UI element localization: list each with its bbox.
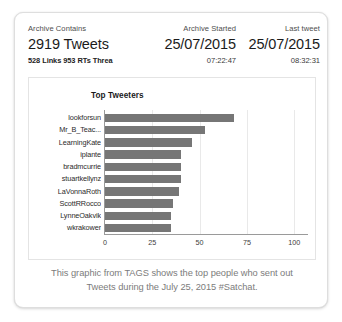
- chart-bar-row: ScottRRocco: [29, 198, 317, 210]
- bar-fill: [105, 212, 171, 221]
- chart-bar-row: wkrakower: [29, 222, 317, 234]
- stat-archive-contains-caption: Archive Contains: [28, 24, 148, 34]
- chart-bar-row: bradmcurrie: [29, 161, 317, 173]
- chart-bar-row: LaVonnaRoth: [29, 186, 317, 198]
- bar-fill: [105, 224, 171, 233]
- stat-archive-contains-detail: 528 Links 953 RTs Threa: [28, 55, 148, 66]
- figure-caption-line-2: Tweets during the July 25, 2015 #Satchat…: [31, 281, 313, 295]
- bar-fill: [105, 114, 234, 123]
- archive-stats-row: Archive Contains 2919 Tweets 528 Links 9…: [15, 13, 329, 73]
- stat-archive-started: Archive Started 25/07/2015 07:22:47: [148, 24, 236, 66]
- bar-category-label: lookforsun: [29, 112, 101, 124]
- bar-category-label: wkrakower: [29, 222, 101, 234]
- stat-archive-started-time: 07:22:47: [148, 55, 236, 66]
- bar-category-label: ScottRRocco: [29, 198, 101, 210]
- top-tweeters-chart-panel: Top Tweeters 0255075100lookforsunMr_B_Te…: [28, 77, 316, 260]
- bar-category-label: iplante: [29, 149, 101, 161]
- stat-last-tweet: Last tweet 25/07/2015 08:32:31: [240, 24, 320, 66]
- chart-bar-row: iplante: [29, 149, 317, 161]
- bar-fill: [105, 187, 179, 196]
- bar-category-label: stuartkellynz: [29, 173, 101, 185]
- bar-fill: [105, 163, 181, 172]
- figure-caption-line-1: This graphic from TAGS shows the top peo…: [31, 267, 313, 281]
- stat-archive-contains: Archive Contains 2919 Tweets 528 Links 9…: [28, 24, 148, 66]
- chart-bar-row: LynneOakvik: [29, 210, 317, 222]
- stat-archive-started-caption: Archive Started: [148, 24, 236, 34]
- bar-category-label: LynneOakvik: [29, 210, 101, 222]
- bar-category-label: LaVonnaRoth: [29, 186, 101, 198]
- stat-last-tweet-caption: Last tweet: [240, 24, 320, 34]
- bar-fill: [105, 138, 192, 147]
- stat-last-tweet-time: 08:32:31: [240, 55, 320, 66]
- bar-fill: [105, 199, 173, 208]
- chart-bar-row: stuartkellynz: [29, 173, 317, 185]
- stat-archive-contains-value: 2919 Tweets: [28, 35, 148, 54]
- chart-bar-row: lookforsun: [29, 112, 317, 124]
- stat-last-tweet-date: 25/07/2015: [240, 35, 320, 54]
- chart-bar-row: Mr_B_Teac...: [29, 124, 317, 136]
- bar-fill: [105, 175, 181, 184]
- chart-title: Top Tweeters: [91, 91, 144, 100]
- chart-plot-area: 0255075100lookforsunMr_B_Teac...Learning…: [29, 110, 317, 261]
- figure-caption: This graphic from TAGS shows the top peo…: [31, 267, 313, 294]
- bar-fill: [105, 126, 205, 135]
- bar-category-label: Mr_B_Teac...: [29, 124, 101, 136]
- x-axis-tick-label: 0: [93, 238, 117, 247]
- bar-category-label: LearningKate: [29, 137, 101, 149]
- stat-archive-started-date: 25/07/2015: [148, 35, 236, 54]
- x-axis-tick-label: 75: [235, 238, 259, 247]
- x-axis-tick-label: 25: [140, 238, 164, 247]
- x-axis-tick-label: 100: [282, 238, 306, 247]
- bar-category-label: bradmcurrie: [29, 161, 101, 173]
- tags-summary-card: Archive Contains 2919 Tweets 528 Links 9…: [14, 12, 328, 308]
- chart-bar-row: LearningKate: [29, 137, 317, 149]
- bar-fill: [105, 150, 181, 159]
- x-axis-tick-label: 50: [188, 238, 212, 247]
